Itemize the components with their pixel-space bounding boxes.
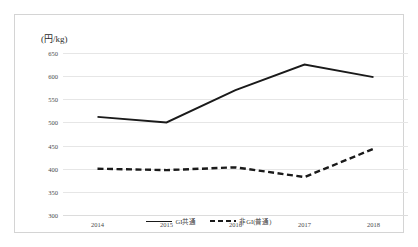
y-tick-label: 500 bbox=[48, 119, 58, 126]
chart-figure: (円/kg) 300350400450500550600650 20142015… bbox=[0, 0, 418, 247]
legend-swatch-solid-icon bbox=[146, 221, 172, 222]
chart-legend: GI共通非GI(普通) bbox=[0, 216, 418, 226]
y-tick-label: 550 bbox=[48, 96, 58, 103]
y-tick-label: 400 bbox=[48, 165, 58, 172]
series-line bbox=[98, 65, 374, 123]
y-tick-label: 350 bbox=[48, 188, 58, 195]
legend-item[interactable]: GI共通 bbox=[146, 216, 196, 226]
series-line bbox=[98, 149, 374, 177]
plot-area: 300350400450500550600650 201420152016201… bbox=[63, 53, 408, 215]
y-tick-label: 650 bbox=[48, 50, 58, 57]
legend-label: 非GI(普通) bbox=[239, 216, 271, 226]
legend-label: GI共通 bbox=[175, 216, 196, 226]
chart-frame: (円/kg) 300350400450500550600650 20142015… bbox=[14, 14, 404, 233]
legend-swatch-dashed-icon bbox=[210, 220, 236, 222]
series-lines bbox=[63, 53, 408, 215]
y-tick-label: 450 bbox=[48, 142, 58, 149]
y-axis-title: (円/kg) bbox=[41, 32, 68, 45]
y-tick-label: 600 bbox=[48, 73, 58, 80]
legend-item[interactable]: 非GI(普通) bbox=[210, 216, 271, 226]
